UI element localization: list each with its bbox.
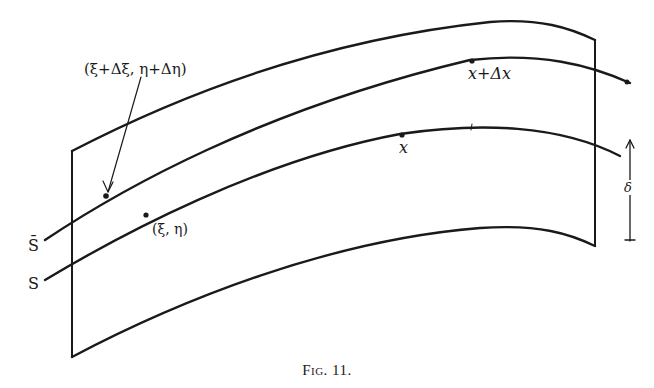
- curve-s: [45, 127, 620, 280]
- s-bar-end-dot: [625, 80, 630, 85]
- label-x-plus-dx: x+Δx: [468, 66, 511, 82]
- label-xi-eta: (ξ, η): [152, 222, 188, 236]
- point-x-plus-dx-marker: [469, 58, 474, 63]
- label-shifted-point: (ξ+Δξ, η+Δη): [84, 62, 187, 77]
- point-x-marker: [399, 132, 404, 137]
- figure-caption: Fig. 11.: [0, 362, 654, 379]
- strip-bottom-boundary: [72, 227, 595, 357]
- point-xi-eta-marker: [143, 212, 148, 217]
- label-delta: δ: [624, 180, 632, 195]
- tick-mark: [471, 124, 472, 130]
- label-s: S: [28, 276, 39, 292]
- pointer-arrow: [108, 77, 141, 192]
- strip-diagram: [0, 0, 654, 388]
- label-x: x: [399, 140, 408, 156]
- point-shifted-marker: [103, 193, 109, 199]
- strip-top-boundary: [72, 21, 595, 151]
- label-s-bar: S̄: [28, 238, 39, 254]
